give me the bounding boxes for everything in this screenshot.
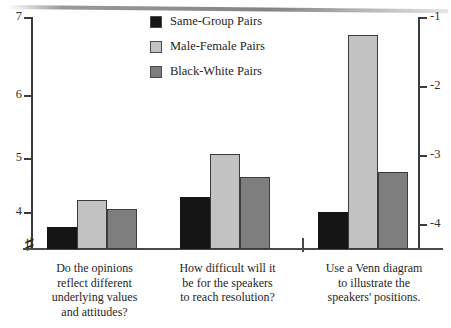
category-label-3-line-2: to illustrate the [300,276,448,291]
category-label-2-line-2: be for the speakers [155,276,300,291]
bars-layer [0,0,451,249]
bar-g1-black-white [107,209,137,249]
bar-g3-black-white [378,172,408,249]
bar-g3-male-female [348,35,378,249]
bar-g2-same-group [180,197,210,249]
bar-g1-same-group [47,227,77,249]
category-label-2-line-1: How difficult will it [155,261,300,276]
bar-chart: Same-Group Pairs Male-Female Pairs Black… [0,0,451,328]
category-label-1-line-3: underlying values [22,290,167,305]
category-label-1: Do the opinions reflect different underl… [22,261,167,319]
bar-g3-same-group [318,212,348,249]
category-label-1-line-1: Do the opinions [22,261,167,276]
category-label-3: Use a Venn diagram to illustrate the spe… [300,261,448,305]
category-label-2: How difficult will it be for the speaker… [155,261,300,305]
bar-g2-black-white [240,177,270,249]
bar-g1-male-female [77,200,107,249]
category-label-3-line-1: Use a Venn diagram [300,261,448,276]
category-label-1-line-4: and attitudes? [22,305,167,320]
bar-g2-male-female [210,154,240,249]
category-label-3-line-3: speakers' positions. [300,290,448,305]
category-label-1-line-2: reflect different [22,276,167,291]
category-label-2-line-3: to reach resolution? [155,290,300,305]
